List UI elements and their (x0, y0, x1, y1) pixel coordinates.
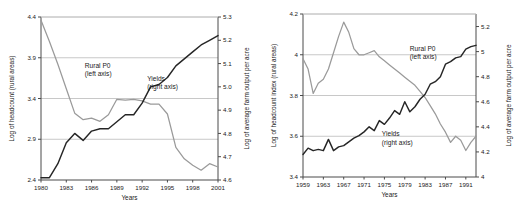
right-tick-label: 4.6 (481, 98, 490, 105)
right-tick-label: 4.9 (223, 106, 232, 113)
x-tick-label: 1959 (296, 181, 310, 188)
right-tick-label: 4.2 (481, 148, 490, 155)
x-tick-label: 1987 (439, 181, 453, 188)
x-tick-label: 1989 (110, 184, 124, 191)
left-tick-label: 3.6 (289, 132, 298, 139)
series-annotation-axis: (right axis) (382, 139, 413, 147)
right-tick-label: 5.2 (481, 23, 490, 30)
gridlines (41, 17, 218, 139)
x-tick-label: 2001 (211, 184, 225, 191)
x-axis-ticks: 19801983198619891992199519982001 (34, 180, 225, 191)
left-axis-ticks: 2.42.93.43.94.4 (27, 13, 41, 183)
x-tick-label: 1971 (357, 181, 371, 188)
x-tick-label: 1983 (59, 184, 73, 191)
right-tick-label: 5.3 (223, 13, 232, 20)
x-tick-label: 1986 (85, 184, 99, 191)
y-axis-title: Log of headcount (rural areas) (8, 56, 16, 142)
x-tick-label: 1975 (378, 181, 392, 188)
x-axis-title: Years (381, 191, 397, 198)
x-tick-label: 1992 (135, 184, 149, 191)
right-axis-ticks: 4.64.74.84.95.05.15.25.3 (218, 13, 232, 183)
x-tick-label: 1995 (161, 184, 175, 191)
series-annotation-title: Rural P0 (410, 45, 436, 52)
y2-axis-title: Log of average farm output per acre (243, 47, 251, 149)
y2-axis-title: Log of average farm output per acre (505, 44, 513, 146)
x-tick-label: 1983 (418, 181, 432, 188)
right-axis-ticks: 44.24.44.64.855.2 (476, 23, 490, 180)
right-tick-label: 5.2 (223, 36, 232, 43)
series-line-yields (41, 36, 218, 178)
right-tick-label: 4.8 (223, 130, 232, 137)
right-tick-label: 4.7 (223, 153, 232, 160)
left-tick-label: 4 (295, 51, 299, 58)
right-tick-label: 4.6 (223, 176, 232, 183)
x-tick-label: 1998 (186, 184, 200, 191)
x-tick-label: 1991 (459, 181, 473, 188)
series-annotation-axis: (right axis) (147, 83, 178, 91)
left-tick-label: 2.9 (27, 135, 36, 142)
left-tick-label: 4.4 (27, 13, 36, 20)
chart-panel-right: 3.43.63.844.244.24.44.64.855.21959196319… (263, 0, 527, 216)
x-tick-label: 1979 (398, 181, 412, 188)
series-annotation-title: Yields (147, 75, 165, 82)
left-tick-label: 2.4 (27, 176, 36, 183)
x-axis-title: Years (121, 194, 137, 201)
x-tick-label: 1967 (337, 181, 351, 188)
right-tick-label: 4.4 (481, 123, 490, 130)
left-tick-label: 3.8 (289, 92, 298, 99)
figure-root: 2.42.93.43.94.44.64.74.84.95.05.15.25.31… (0, 0, 527, 216)
x-tick-label: 1980 (34, 184, 48, 191)
series-annotation-axis: (left axis) (85, 70, 112, 78)
right-tick-label: 5.1 (223, 60, 232, 67)
y-axis-title: Log of headcount index (rural areas) (270, 44, 278, 147)
x-axis-ticks: 195919631967197119751979198319871991 (296, 177, 473, 188)
chart-svg: 3.43.63.844.244.24.44.64.855.21959196319… (263, 0, 527, 216)
series-annotation-title: Yields (382, 130, 400, 137)
left-tick-label: 3.4 (289, 173, 298, 180)
left-tick-label: 4.2 (289, 10, 298, 17)
left-tick-label: 3.9 (27, 54, 36, 61)
left-tick-label: 3.4 (27, 95, 36, 102)
right-tick-label: 4 (481, 173, 485, 180)
right-tick-label: 4.8 (481, 73, 490, 80)
series-annotation-axis: (left axis) (410, 53, 437, 61)
series-annotation-title: Rural P0 (85, 62, 111, 69)
chart-svg: 2.42.93.43.94.44.64.74.84.95.05.15.25.31… (0, 0, 263, 216)
x-tick-label: 1963 (316, 181, 330, 188)
right-tick-label: 5.0 (223, 83, 232, 90)
left-axis-ticks: 3.43.63.844.2 (289, 10, 303, 180)
chart-panel-left: 2.42.93.43.94.44.64.74.84.95.05.15.25.31… (0, 0, 263, 216)
series-line-rural-p0 (41, 20, 218, 170)
right-tick-label: 5 (481, 48, 485, 55)
